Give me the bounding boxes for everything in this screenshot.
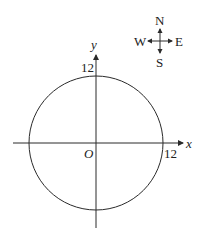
y-axis-label: y <box>89 37 97 52</box>
circle-diagram: x y O 12 12 N S E W <box>0 0 200 238</box>
origin-label: O <box>84 146 94 161</box>
y-tick-label: 12 <box>81 60 94 75</box>
compass-east-label: E <box>175 34 183 49</box>
compass-icon <box>147 28 173 54</box>
x-tick-label: 12 <box>164 146 177 161</box>
x-axis-label: x <box>185 136 192 151</box>
compass-west-label: W <box>134 34 147 49</box>
compass-north-label: N <box>155 13 165 28</box>
compass-south-label: S <box>156 55 163 70</box>
